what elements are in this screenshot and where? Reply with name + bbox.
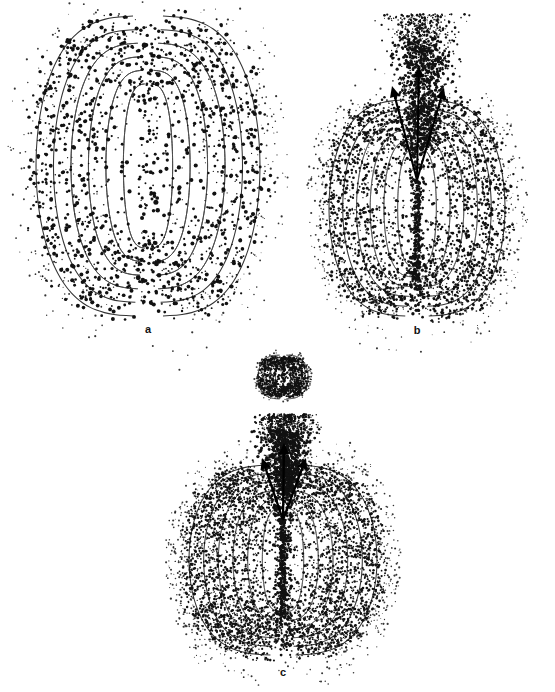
contour-line [421,139,450,277]
panel-b [300,0,555,340]
contour-line [88,57,140,275]
panel-c [160,345,410,665]
panel-a [0,0,300,340]
stipple-group [7,0,288,371]
contour-line [151,84,172,248]
panel-c-label: c [273,666,293,678]
compact-dipole-inset [253,350,312,403]
panel-b-label: b [407,324,427,336]
figure-canvas: a b c [0,0,555,692]
contour-line [154,70,190,261]
panel-a-label: a [138,323,158,335]
contour-line [123,84,144,248]
jet-arrow-1-shaft [283,454,284,520]
